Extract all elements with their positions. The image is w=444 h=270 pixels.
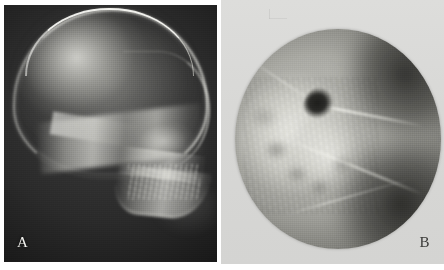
panel-b-coned-down-radiograph: B xyxy=(221,0,444,264)
panel-b-collimation-circle xyxy=(235,29,441,249)
panel-b-label: B xyxy=(419,235,430,250)
panel-a-lateral-skull-radiograph: A xyxy=(4,5,217,262)
panel-a-film-grain xyxy=(4,5,217,262)
panel-b-scan-artifact xyxy=(269,9,287,19)
panel-a-label: A xyxy=(17,235,28,250)
panel-b-film-grain xyxy=(235,29,441,249)
radiograph-figure: A B xyxy=(0,0,444,270)
